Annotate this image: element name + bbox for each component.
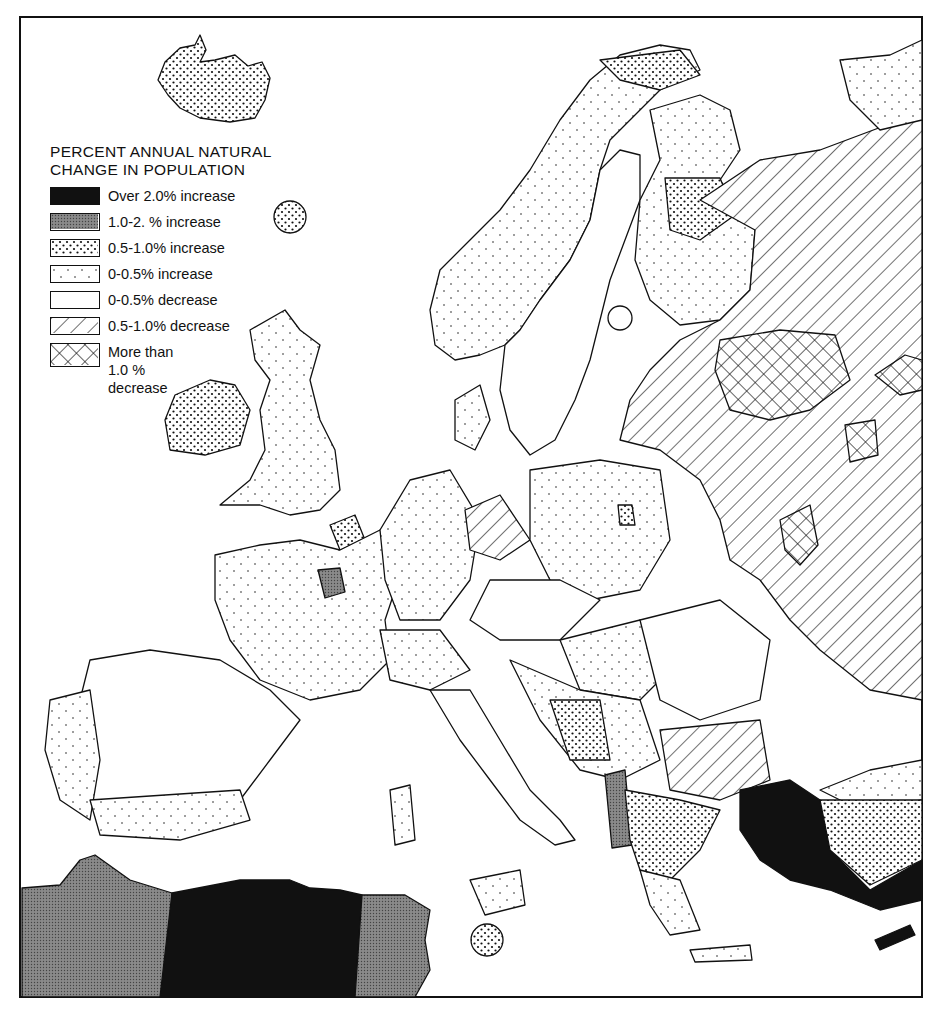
- swatch-cross-hatch: [50, 343, 100, 367]
- legend-title-line1: PERCENT ANNUAL NATURAL: [50, 143, 310, 161]
- region-algeria: [160, 880, 362, 997]
- legend-item-0-05-decrease: 0-0.5% decrease: [50, 291, 310, 317]
- swatch-dense-gray: [50, 213, 100, 231]
- legend-title-line2: CHANGE IN POPULATION: [50, 161, 310, 179]
- legend-item-05-1-decrease: 0.5-1.0% decrease: [50, 317, 310, 343]
- legend-item-over-2-increase: Over 2.0% increase: [50, 187, 310, 213]
- region-poland-dense: [618, 505, 635, 525]
- legend-item-over-1-decrease: More than 1.0 % decrease: [50, 343, 310, 397]
- legend-label: 0.5-1.0% decrease: [108, 317, 230, 335]
- region-sardinia: [390, 785, 415, 845]
- legend-label: 0.5-1.0% increase: [108, 239, 225, 257]
- legend-label: 0-0.5% decrease: [108, 291, 218, 309]
- legend-title: PERCENT ANNUAL NATURAL CHANGE IN POPULAT…: [50, 143, 310, 179]
- swatch-sparse-dots: [50, 265, 100, 283]
- legend-label: 1.0-2. % increase: [108, 213, 221, 231]
- legend-item-0-05-increase: 0-0.5% increase: [50, 265, 310, 291]
- legend-label-line2: 1.0 %: [108, 361, 173, 379]
- legend-item-1-2-increase: 1.0-2. % increase: [50, 213, 310, 239]
- legend-label-line3: decrease: [108, 379, 173, 397]
- region-ussr-cross-3: [845, 420, 878, 462]
- legend-item-05-1-increase: 0.5-1.0% increase: [50, 239, 310, 265]
- region-malta-circle: [471, 924, 503, 956]
- swatch-solid-black: [50, 187, 100, 205]
- legend-label-line1: More than: [108, 343, 173, 361]
- swatch-dense-dots: [50, 239, 100, 257]
- map-legend: PERCENT ANNUAL NATURAL CHANGE IN POPULAT…: [50, 143, 310, 397]
- legend-label: 0-0.5% increase: [108, 265, 213, 283]
- legend-label: Over 2.0% increase: [108, 187, 235, 205]
- legend-label: More than 1.0 % decrease: [108, 343, 173, 397]
- swatch-blank: [50, 291, 100, 309]
- swatch-diagonal-hatch: [50, 317, 100, 335]
- region-tunisia: [355, 895, 430, 997]
- region-aland-circle: [608, 306, 632, 330]
